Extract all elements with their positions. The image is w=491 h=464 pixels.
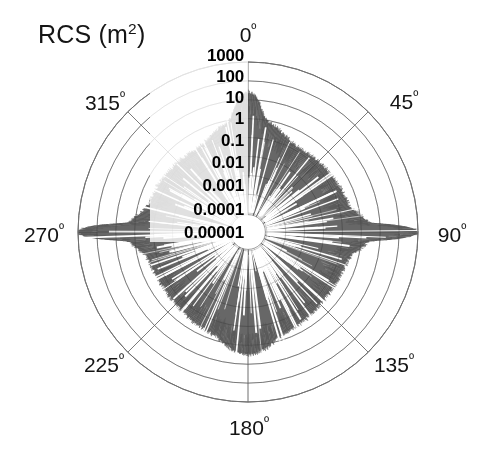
angle-label-0: 0º — [240, 23, 257, 47]
page-title: RCS (m2) — [38, 20, 145, 49]
radial-tick-label: 0.00001 — [184, 223, 244, 243]
angle-label-value: 0 — [240, 23, 252, 46]
angle-label-180: 180º — [229, 416, 269, 440]
radial-tick-label: 0.001 — [202, 176, 244, 196]
rcs-polar-figure: RCS (m2) 0º45º90º135º180º225º270º315º 10… — [0, 0, 491, 464]
angle-label-225: 225º — [84, 353, 124, 377]
degree-icon: º — [409, 351, 414, 367]
degree-icon: º — [251, 21, 256, 37]
angle-label-90: 90º — [438, 223, 466, 247]
degree-icon: º — [413, 88, 418, 104]
radial-tick-label: 0.01 — [212, 153, 244, 173]
angle-label-value: 45 — [390, 90, 413, 113]
angle-label-value: 315 — [85, 91, 120, 114]
angle-label-value: 135 — [374, 353, 409, 376]
angle-label-45: 45º — [390, 90, 418, 114]
radial-tick-label: 0.0001 — [193, 200, 244, 220]
degree-icon: º — [461, 221, 466, 237]
axis-title-text: RCS (m — [38, 20, 128, 48]
angle-label-value: 225 — [84, 353, 119, 376]
degree-icon: º — [59, 221, 64, 237]
radial-tick-label: 0.1 — [221, 131, 244, 151]
axis-title-exponent: 2 — [128, 20, 137, 37]
radial-tick-label: 10 — [225, 88, 244, 108]
radial-tick-label: 1000 — [207, 46, 244, 66]
axis-title-close: ) — [137, 20, 146, 48]
polar-plot-canvas — [0, 0, 491, 464]
degree-icon: º — [119, 351, 124, 367]
angle-label-315: 315º — [85, 91, 125, 115]
angle-label-value: 90 — [438, 223, 461, 246]
angle-label-value: 180 — [229, 416, 264, 439]
angle-label-135: 135º — [374, 353, 414, 377]
angle-label-270: 270º — [24, 223, 64, 247]
radial-tick-label: 1 — [235, 109, 244, 129]
degree-icon: º — [120, 89, 125, 105]
radial-tick-label: 100 — [216, 67, 244, 87]
degree-icon: º — [264, 414, 269, 430]
angle-label-value: 270 — [24, 223, 59, 246]
